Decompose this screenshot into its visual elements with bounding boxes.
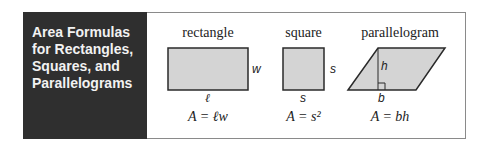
- parallelogram-base-label: b: [378, 91, 385, 105]
- parallelogram-shape: [348, 48, 445, 90]
- square-formula: A = s²: [273, 109, 334, 125]
- square-base-label: s: [300, 91, 306, 105]
- rectangle-width-label: w: [252, 62, 261, 76]
- rectangle-label: rectangle: [168, 25, 248, 41]
- rectangle-shape: [168, 48, 248, 90]
- parallelogram-formula: A = bh: [350, 109, 430, 125]
- rectangle-length-label: ℓ: [205, 91, 210, 106]
- square-label: square: [273, 25, 334, 41]
- parallelogram-height-label: h: [381, 59, 388, 73]
- parallelogram-label: parallelogram: [350, 25, 450, 41]
- square-side-label: s: [330, 62, 336, 76]
- square-shape: [283, 48, 324, 90]
- rectangle-formula: A = ℓw: [168, 109, 248, 125]
